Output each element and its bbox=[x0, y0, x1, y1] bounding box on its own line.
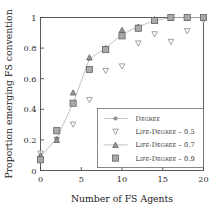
x-tick-label: 0 bbox=[38, 174, 43, 184]
y-axis-title: Proportion emerging FS convention bbox=[3, 9, 14, 178]
legend-label: Life-Degree – 0.9 bbox=[136, 155, 195, 163]
x-tick-label: 20 bbox=[198, 174, 208, 184]
data-point-marker bbox=[119, 27, 125, 32]
y-tick-label: 0.8 bbox=[23, 43, 36, 53]
chart-legend: DegreeLife-Degree – 0.5Life-Degree – 0.7… bbox=[98, 109, 204, 168]
data-point-marker bbox=[54, 128, 60, 134]
x-tick-label: 10 bbox=[117, 174, 127, 184]
x-tick-label: 5 bbox=[79, 174, 84, 184]
data-point-marker bbox=[114, 117, 117, 120]
y-tick-label: 0.4 bbox=[23, 104, 36, 114]
data-point-marker bbox=[184, 14, 190, 20]
y-axis-ticks bbox=[41, 18, 45, 171]
legend-label: Life-Degree – 0.7 bbox=[136, 141, 195, 149]
data-point-marker bbox=[135, 25, 141, 31]
data-point-marker bbox=[37, 157, 43, 163]
y-tick-label: 0.6 bbox=[23, 74, 36, 84]
x-axis-tick-labels: 05101520 bbox=[38, 174, 209, 184]
y-tick-label: 0.2 bbox=[23, 135, 36, 145]
y-axis-tick-labels: 00.20.40.60.81 bbox=[23, 13, 36, 176]
legend-label: Life-Degree – 0.5 bbox=[136, 128, 195, 136]
data-point-marker bbox=[152, 17, 158, 23]
data-point-marker bbox=[86, 66, 92, 72]
data-point-marker bbox=[152, 32, 158, 37]
x-tick-label: 15 bbox=[158, 174, 168, 184]
data-point-marker bbox=[184, 29, 190, 34]
legend-label: Degree bbox=[136, 115, 161, 123]
data-point-marker bbox=[103, 47, 109, 53]
data-point-marker bbox=[136, 41, 142, 46]
data-point-marker bbox=[119, 33, 125, 39]
data-point-marker bbox=[119, 64, 125, 69]
chart-canvas: 05101520 00.20.40.60.81 DegreeLife-Degre… bbox=[0, 0, 216, 212]
data-point-marker bbox=[70, 122, 76, 127]
data-point-marker bbox=[103, 68, 109, 73]
y-tick-label: 0 bbox=[31, 166, 36, 176]
data-point-marker bbox=[168, 39, 174, 44]
data-point-marker bbox=[70, 90, 76, 95]
x-axis-title: Number of FS Agents bbox=[71, 193, 173, 204]
data-point-marker bbox=[112, 155, 118, 161]
data-point-marker bbox=[168, 14, 174, 20]
y-tick-label: 1 bbox=[31, 13, 36, 23]
data-point-marker bbox=[87, 98, 93, 103]
chart-figure: 05101520 00.20.40.60.81 DegreeLife-Degre… bbox=[0, 0, 216, 212]
data-point-marker bbox=[70, 100, 76, 106]
data-point-marker bbox=[200, 14, 206, 20]
